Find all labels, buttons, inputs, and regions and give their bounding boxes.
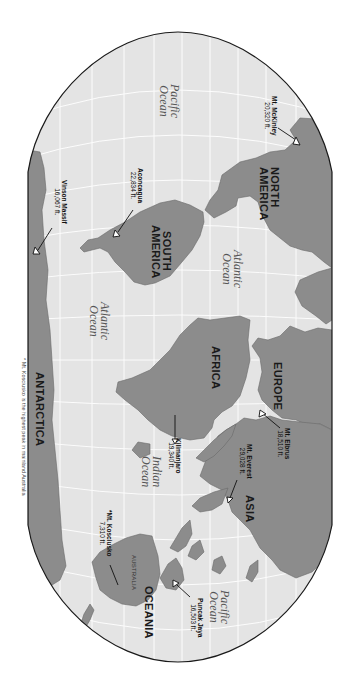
label-europe: EUROPE xyxy=(272,362,284,410)
label-pacific-ocean-east: Pacific Ocean xyxy=(208,590,230,624)
peak-label-everest: Mt. Everest 29,028 ft. xyxy=(239,444,253,479)
peak-label-vinson: Vinson Massif 16,067 ft. xyxy=(54,180,68,224)
label-indian-ocean: Indian Ocean xyxy=(140,456,162,487)
peak-name: Mt. Elbrus xyxy=(284,428,291,459)
label-africa: AFRICA xyxy=(210,346,222,389)
peak-name: Mt. McKinley xyxy=(271,96,278,136)
peak-label-kosciusko: *Mt. Kosciusko 7,310 ft. xyxy=(99,510,113,557)
peak-elevation: 20,320 ft. xyxy=(264,96,271,136)
south-america-line2: AMERICA xyxy=(150,225,161,278)
label-australia: AUSTRALIA xyxy=(131,555,137,590)
peak-elevation: 7,310 ft. xyxy=(99,510,106,557)
south-america-line1: SOUTH xyxy=(161,225,172,278)
ocean-line2: Ocean xyxy=(88,302,99,340)
peak-name: Kilimanjaro xyxy=(175,438,182,473)
ocean-line2: Ocean xyxy=(208,590,219,624)
peak-elevation: 18,510 ft. xyxy=(277,428,284,459)
peak-name: Puncak Jaya xyxy=(197,598,204,637)
ocean-line2: Ocean xyxy=(158,84,169,118)
peak-label-aconcagua: Aconcagua 22,834 ft. xyxy=(130,168,144,203)
label-atlantic-ocean-south: Atlantic Ocean xyxy=(88,302,110,340)
peak-label-mckinley: Mt. McKinley 20,320 ft. xyxy=(264,96,278,136)
label-pacific-ocean-west: Pacific Ocean xyxy=(158,84,180,118)
peak-label-elbrus: Mt. Elbrus 18,510 ft. xyxy=(277,428,291,459)
label-south-america: SOUTH AMERICA xyxy=(150,225,172,278)
north-america-line2: AMERICA xyxy=(258,167,269,220)
peak-label-kilimanjaro: Kilimanjaro 19,340 ft. xyxy=(168,438,182,473)
label-antarctica: ANTARCTICA xyxy=(34,372,46,446)
footnote: * Mt. Kosciusko is the highest peak in m… xyxy=(21,358,27,496)
label-asia: ASIA xyxy=(244,495,256,522)
peak-elevation: 19,340 ft. xyxy=(168,438,175,473)
peak-elevation: 16,503 ft. xyxy=(190,598,197,637)
peak-elevation: 29,028 ft. xyxy=(239,444,246,479)
peak-name: *Mt. Kosciusko xyxy=(106,510,113,557)
peak-elevation: 22,834 ft. xyxy=(130,168,137,203)
label-atlantic-ocean-north: Atlantic Ocean xyxy=(221,250,243,288)
peak-name: Mt. Everest xyxy=(246,444,253,479)
label-oceania: OCEANIA xyxy=(143,586,155,639)
peak-name: Aconcagua xyxy=(137,168,144,203)
ocean-line2: Ocean xyxy=(221,250,232,288)
north-america-line1: NORTH xyxy=(269,167,280,220)
peak-label-puncak-jaya: Puncak Jaya 16,503 ft. xyxy=(190,598,204,637)
peak-name: Vinson Massif xyxy=(61,180,68,224)
ocean-line2: Ocean xyxy=(140,456,151,487)
peak-elevation: 16,067 ft. xyxy=(54,180,61,224)
label-north-america: NORTH AMERICA xyxy=(258,167,280,220)
